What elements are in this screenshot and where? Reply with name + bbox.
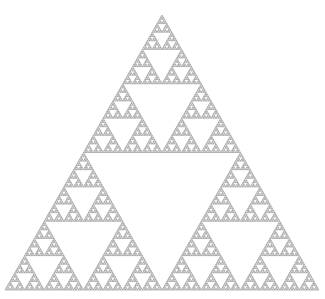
sierpinski-triangle-diagram — [0, 0, 325, 299]
